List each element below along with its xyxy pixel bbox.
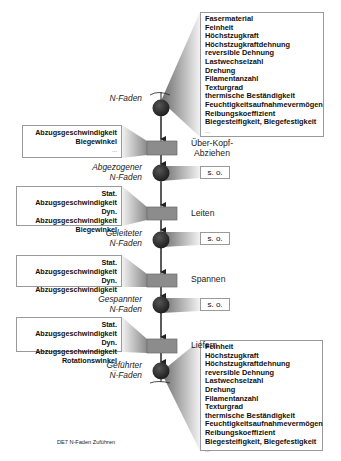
input-properties-box: Fasermaterial Feinheit Höchstzugkraft Hö… bbox=[200, 12, 324, 137]
process-box-icon bbox=[147, 207, 177, 220]
process-params-box: Stat. Abzugsgeschwindigkeit Dyn. Abzugsg… bbox=[16, 255, 122, 287]
same-as-above-box: s. o. bbox=[200, 232, 230, 245]
output-properties-box: Feinheit Höchstzugkraft Höchstzugkraftde… bbox=[200, 340, 323, 451]
state-node-icon bbox=[153, 297, 170, 314]
more-ellipsis: ... bbox=[205, 127, 319, 136]
state-node-icon bbox=[153, 232, 170, 249]
more-ellipsis: ... bbox=[205, 446, 318, 455]
state-node-icon bbox=[153, 165, 170, 182]
process-box-icon bbox=[147, 274, 177, 287]
state-node-icon bbox=[153, 363, 170, 380]
process-params-box: Stat. Abzugsgeschwindigkeit Dyn. Abzugsg… bbox=[16, 186, 122, 226]
same-as-above-box: s. o. bbox=[200, 166, 230, 179]
process-label-leiten: Leiten bbox=[191, 208, 214, 218]
property-item: Biegesteifigkeit, Biegefestigkeit bbox=[205, 438, 318, 447]
process-params-box: Abzugsgeschwindigkeit Biegewinkel ... bbox=[22, 125, 122, 158]
callout-wedge-top bbox=[161, 12, 200, 137]
process-label-spannen: Spannen bbox=[191, 274, 225, 284]
state-label: N-Faden bbox=[60, 93, 142, 103]
state-label: Abgezogener N-Faden bbox=[60, 162, 142, 182]
same-as-above-box: s. o. bbox=[200, 298, 230, 311]
process-label-ueber-kopf-abziehen: Über-Kopf- Abziehen bbox=[186, 138, 238, 158]
state-node-icon bbox=[153, 100, 170, 117]
callout-wedge-bottom bbox=[161, 340, 200, 451]
figure-caption: DE7 N-Faden Zuführen bbox=[57, 439, 115, 445]
process-box-icon bbox=[147, 141, 177, 155]
process-params-box: Stat. Abzugsgeschwindigkeit Dyn. Abzugsg… bbox=[16, 317, 122, 352]
process-label-liefern: Liefern bbox=[191, 340, 217, 350]
process-box-icon bbox=[147, 339, 177, 353]
property-item: Biegesteifigkeit, Biegefestigkeit bbox=[205, 118, 319, 127]
